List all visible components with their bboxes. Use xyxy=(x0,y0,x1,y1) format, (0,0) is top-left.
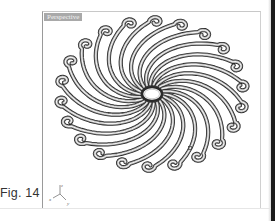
caption-divider xyxy=(42,172,43,207)
figure-caption: Fig. 14 xyxy=(0,186,40,200)
axis-triad-icon: z x y xyxy=(48,182,78,208)
axis-z-label: z xyxy=(60,183,63,188)
axis-x-label: x xyxy=(48,197,52,202)
page-bottom-rule xyxy=(0,208,271,209)
axis-y-label: y xyxy=(66,201,70,206)
perspective-viewport[interactable]: Perspective z x y xyxy=(42,11,261,208)
spiral-rosette-model[interactable] xyxy=(43,12,260,208)
page-edge xyxy=(271,0,275,221)
